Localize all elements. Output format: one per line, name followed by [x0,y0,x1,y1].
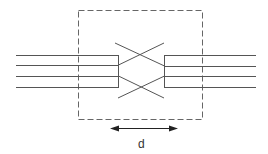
diagram-canvas [0,0,268,154]
dimension-arrow [110,126,178,132]
right-lines [165,55,257,88]
left-lines [16,55,119,88]
dimension-label: d [138,137,145,151]
crossing-lines [115,43,165,98]
